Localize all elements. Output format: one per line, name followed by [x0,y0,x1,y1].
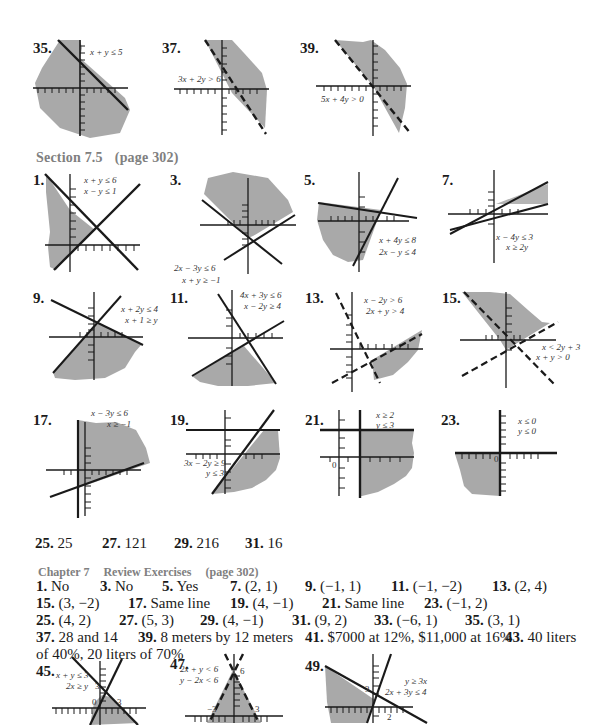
graph-17-labels: x − 3y ≤ 6 x ≥ −1 [85,408,145,432]
inequality-label: x + 4y ≤ 8 [378,235,417,245]
graph-7: x − 4y ≤ 3 x ≥ 2y [448,168,558,268]
answer-item: 9. (−1, 1) [305,578,361,595]
inequality-label: x < 2y + 3 [541,342,581,352]
answer-item: 43. 40 liters [505,629,576,646]
answer-item: 25. (4, 2) [36,612,91,629]
answer-item: 37. 28 and 14 [36,629,118,646]
exercise-number: 49. [305,658,324,675]
inequality-label: y − 2x < 6 [179,675,219,685]
inequality-label: x ≥ −1 [106,419,131,429]
inequality-label: 4x + 3y ≤ 6 [240,290,282,300]
answer-item: 23. (−1, 2) [424,595,487,612]
graph-47-labels: 2x + y < 6 y − 2x < 6 [178,662,238,690]
answer-item: 41. $7000 at 12%, $11,000 at 16% [305,629,512,646]
tick-label: 3 [365,684,370,694]
graph-37: 3x + 2y > 6 [172,38,272,138]
inequality-label: x + y > 0 [535,352,570,362]
inequality-label: 2x + y < 6 [180,664,219,674]
graph-11: 4x + 3y ≤ 6 x − 2y ≥ 4 [188,288,288,388]
answer-item: 39. 8 meters by 12 meters [138,629,293,646]
exercise-number: 11. [170,290,188,307]
answer-item: 31. (9, 2) [292,612,347,629]
inequality-label: x + y ≤ 6 [83,175,117,185]
inequality-label: x − 2y > 6 [363,295,403,305]
graph-21: 0 x ≥ 2 y ≤ 3 [318,408,418,508]
tick-label: 3 [117,697,122,707]
answer-item: 27. 121 [102,535,147,552]
graph-35: x + y ≤ 5 [30,38,135,143]
shaded-region [325,666,375,723]
inequality-label: y ≤ 0 [517,426,536,436]
inequality-label: 3x − 2y ≥ 9 [183,458,226,468]
answer-item: 35. (3, 1) [465,612,520,629]
inequality-label: x + y ≤ 3 [55,670,89,680]
inequality-label: 5x + 4y > 0 [321,94,364,104]
graph-49: 3 2 y ≥ 3x 2x + 3y ≤ 4 [323,652,433,723]
tick-label: 3 [255,704,260,714]
answer-item: 3. No [100,578,133,595]
answer-item: 27. (5, 3) [119,612,174,629]
graph-5: x + 4y ≤ 8 2x − y ≤ 4 [313,170,423,275]
tick-label: −3 [207,704,217,714]
tick-label: 6 [240,666,245,676]
answer-item: 13. (2, 4) [492,578,547,595]
inequality-label: x − 3y ≤ 6 [90,408,129,418]
inequality-label: 2x + y > 4 [366,306,405,316]
shaded-region [53,322,141,380]
inequality-label: x − 4y ≤ 3 [495,232,534,242]
shaded-region [360,430,414,496]
inequality-label: x − y ≤ 1 [83,186,117,196]
inequality-label: x + y ≥ −1 [181,275,221,285]
section-title: Section 7.5 [36,150,103,165]
origin-label: 0 [494,454,499,464]
exercise-number: 3. [170,172,181,189]
answer-item: 17. Same line [128,595,210,612]
answer-item: 11. (−1, −2) [391,578,462,595]
inequality-label: 2x ≥ y [66,681,88,691]
graph-45-labels: x + y ≤ 3 2x ≥ y [50,668,100,696]
inequality-label: 3x + 2y > 6 [177,74,221,84]
answer-item: 5. Yes [162,578,198,595]
inequality-label: x + 1 ≥ y [124,315,158,325]
inequality-label: x + y ≤ 5 [89,47,123,57]
inequality-label: y ≤ 3 [375,420,394,430]
inequality-label: y ≤ 3 [205,468,224,478]
answer-item: 7. (2, 1) [230,578,278,595]
tick-label: 2 [387,712,392,722]
answer-item: 33. (−6, 1) [374,612,437,629]
inequality-label: x ≥ 2y [505,242,528,252]
exercise-number: 15. [442,290,461,307]
inequality-label: 2x + 3y ≤ 4 [385,687,427,697]
answer-item: 15. (3, −2) [36,595,99,612]
graph-39: 5x + 4y > 0 [315,38,415,138]
graph-19: 3x − 2y ≥ 9 y ≤ 3 [184,408,284,508]
answer-item: 21. Same line [322,595,404,612]
inequality-label: x + 2y ≤ 4 [120,304,159,314]
answer-item: 1. No [36,578,69,595]
inequality-label: x ≥ 2 [375,410,394,420]
answer-item: 31. 16 [245,535,283,552]
inequality-label: x ≤ 0 [517,416,536,426]
graph-3-labels: 2x − 3y ≤ 6 x + y ≥ −1 [170,262,240,288]
graph-9: x + 2y ≤ 4 x + 1 ≥ y [45,290,150,385]
tick-label: 0 [92,697,97,707]
section-heading: Section 7.5(page 302) [36,150,179,166]
inequality-label: x − 2y ≥ 4 [243,301,282,311]
graph-13: x − 2y > 6 2x + y > 4 [318,290,428,390]
inequality-label: y ≥ 3x [404,676,427,686]
answer-item: 25. 25 [35,535,73,552]
section-page: (page 302) [115,150,179,165]
inequality-label: 2x − y ≤ 4 [379,247,417,257]
origin-label: 0 [332,460,337,470]
answer-item: 19. (4, −1) [230,595,293,612]
graph-23: 0 x ≤ 0 y ≤ 0 [452,408,562,508]
answer-item: 29. 216 [174,535,219,552]
graph-1: x + y ≤ 6 x − y ≤ 1 [40,172,145,277]
answer-item: 29. (4, −1) [200,612,263,629]
exercise-number: 9. [33,290,44,307]
graph-15: x < 2y + 3 x + y > 0 [460,290,580,390]
inequality-label: 2x − 3y ≤ 6 [174,263,216,273]
